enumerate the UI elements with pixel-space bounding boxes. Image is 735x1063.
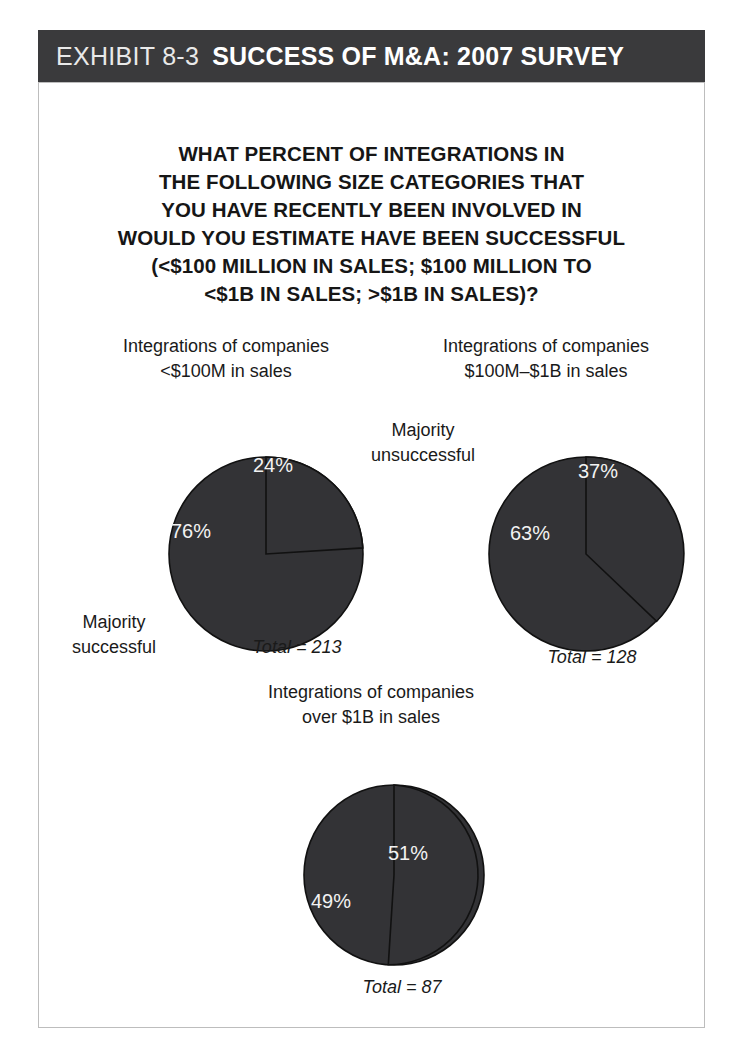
pie-2-label-successful: 63%	[510, 522, 550, 545]
pie-1-label-unsuccessful: 24%	[253, 454, 293, 477]
question-line-3: YOU HAVE RECENTLY BEEN INVOLVED IN	[38, 196, 705, 224]
pie-chart-1	[166, 454, 366, 658]
pie-chart-3-svg	[301, 782, 487, 968]
pie-chart-1-svg	[166, 454, 366, 654]
chart-3-title-line-1: Integrations of companies	[241, 680, 501, 705]
chart-3-title-line-2: over $1B in sales	[241, 705, 501, 730]
chart-2-title: Integrations of companies $100M–$1B in s…	[416, 334, 676, 384]
question-line-6: <$1B IN SALES; >$1B IN SALES)?	[38, 280, 705, 308]
annotation-successful-line-1: Majority	[38, 610, 190, 635]
pie-2-total: Total = 128	[476, 647, 708, 668]
chart-1-title-line-1: Integrations of companies	[96, 334, 356, 359]
annotation-majority-successful: Majority successful	[38, 610, 190, 660]
exhibit-container: EXHIBIT 8-3 SUCCESS OF M&A: 2007 SURVEY …	[38, 30, 705, 1028]
pie-3-total: Total = 87	[286, 977, 518, 998]
pie-chart-2	[486, 454, 686, 658]
annotation-successful-line-2: successful	[38, 635, 190, 660]
pie-chart-2-svg	[486, 454, 686, 654]
question-line-2: THE FOLLOWING SIZE CATEGORIES THAT	[38, 168, 705, 196]
pie-2-label-unsuccessful: 37%	[578, 460, 618, 483]
survey-question: WHAT PERCENT OF INTEGRATIONS IN THE FOLL…	[38, 140, 705, 308]
pie-3-label-unsuccessful: 51%	[388, 842, 428, 865]
chart-3-title: Integrations of companies over $1B in sa…	[241, 680, 501, 730]
chart-2-title-line-2: $100M–$1B in sales	[416, 359, 676, 384]
exhibit-number: EXHIBIT 8-3	[56, 42, 199, 71]
exhibit-header-bar: EXHIBIT 8-3 SUCCESS OF M&A: 2007 SURVEY	[38, 30, 705, 82]
question-line-1: WHAT PERCENT OF INTEGRATIONS IN	[38, 140, 705, 168]
annotation-unsuccessful-line-1: Majority	[343, 418, 503, 443]
exhibit-content: WHAT PERCENT OF INTEGRATIONS IN THE FOLL…	[38, 82, 705, 1028]
chart-2-title-line-1: Integrations of companies	[416, 334, 676, 359]
pie-3-slice-unsuccessful	[388, 785, 478, 965]
pie-1-label-successful: 76%	[171, 520, 211, 543]
pie-chart-3	[301, 782, 487, 972]
question-line-5: (<$100 MILLION IN SALES; $100 MILLION TO	[38, 252, 705, 280]
chart-1-title-line-2: <$100M in sales	[96, 359, 356, 384]
pie-1-total: Total = 213	[181, 637, 413, 658]
annotation-majority-unsuccessful: Majority unsuccessful	[343, 418, 503, 468]
question-line-4: WOULD YOU ESTIMATE HAVE BEEN SUCCESSFUL	[38, 224, 705, 252]
chart-1-title: Integrations of companies <$100M in sale…	[96, 334, 356, 384]
pie-3-label-successful: 49%	[311, 890, 351, 913]
exhibit-title: SUCCESS OF M&A: 2007 SURVEY	[212, 42, 624, 71]
annotation-unsuccessful-line-2: unsuccessful	[343, 443, 503, 468]
